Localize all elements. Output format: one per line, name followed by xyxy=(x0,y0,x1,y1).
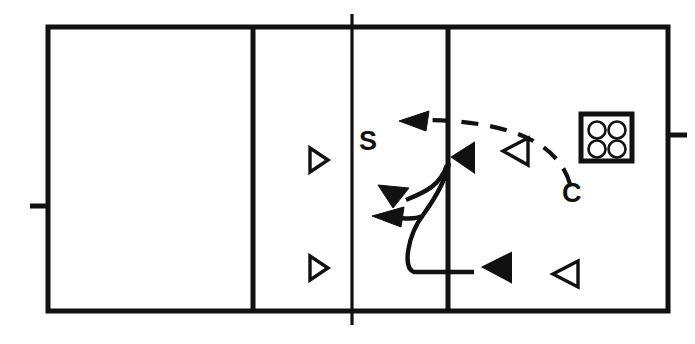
ball-icon xyxy=(609,122,626,139)
player-marker-hollow-right xyxy=(310,148,328,172)
ball-icon xyxy=(609,141,626,158)
player-marker-solid-left xyxy=(483,253,511,282)
player-marker-hollow-right xyxy=(310,256,328,280)
ball-toss-arrowhead-icon xyxy=(399,111,429,131)
ball-icon xyxy=(589,122,606,139)
court-diagram-svg xyxy=(0,0,695,344)
coach-position-label: C xyxy=(562,180,582,207)
set-option-high-arrowhead-icon xyxy=(378,185,409,208)
player-marker-hollow-left xyxy=(503,138,528,165)
set-option-low-arrowhead-icon xyxy=(372,207,404,227)
ball-cart xyxy=(581,114,632,161)
player-marker-solid-left xyxy=(452,143,474,172)
player-marker-hollow-left xyxy=(553,261,578,287)
diagram-canvas: S C xyxy=(0,0,695,344)
ball-icon xyxy=(589,141,606,158)
setter-position-label: S xyxy=(359,128,377,155)
set-option-low-path xyxy=(401,216,423,219)
